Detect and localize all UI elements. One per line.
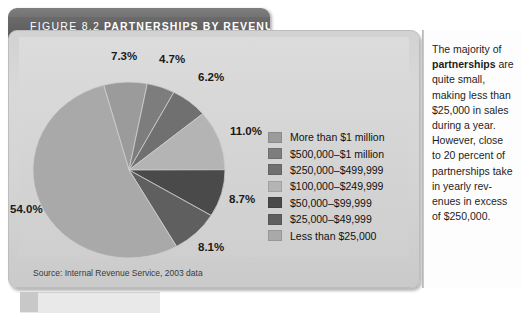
pie-value-label: 8.7% (229, 193, 255, 205)
legend-item: Less than $25,000 (268, 227, 385, 243)
legend-item-label: $100,000–$249,999 (290, 180, 383, 192)
legend-item-label: $250,000–$499,999 (290, 164, 383, 176)
chart-legend: More than $1 million$500,000–$1 million$… (268, 129, 385, 244)
sidebar-divider (423, 30, 424, 288)
figure-panel: 7.3%4.7%6.2%11.0%8.7%8.1%54.0% More than… (8, 30, 420, 288)
legend-item-label: More than $1 million (290, 131, 385, 143)
legend-color-swatch (268, 181, 282, 192)
legend-color-swatch (268, 164, 282, 175)
legend-color-swatch (268, 214, 282, 225)
pie-value-label: 7.3% (111, 50, 137, 62)
pie-chart: 7.3%4.7%6.2%11.0%8.7%8.1%54.0% (23, 67, 273, 282)
sidebar-emphasis: partnerships (432, 58, 496, 70)
pie-value-label: 8.1% (198, 241, 224, 253)
legend-item: $500,000–$1 million (268, 145, 385, 161)
legend-item: $100,000–$249,999 (268, 178, 385, 194)
legend-color-swatch (268, 132, 282, 143)
page-bottom-tab (20, 292, 38, 312)
legend-item: $50,000–$99,999 (268, 195, 385, 211)
legend-color-swatch (268, 197, 282, 208)
pie-value-label: 6.2% (198, 71, 224, 83)
pie-slice-group (33, 82, 225, 258)
sidebar-panel: The majority of partnerships are quite s… (422, 30, 521, 288)
legend-color-swatch (268, 230, 282, 241)
source-note: Source: Internal Revenue Service, 2003 d… (33, 268, 203, 278)
legend-item-label: $500,000–$1 million (290, 148, 384, 160)
sidebar-body-text: The majority of partnerships are quite s… (432, 42, 514, 224)
legend-color-swatch (268, 148, 282, 159)
page-bottom-strip (20, 292, 160, 313)
pie-value-label: 54.0% (10, 203, 43, 215)
legend-item: $250,000–$499,999 (268, 162, 385, 178)
sidebar-text-run: The majority of (432, 43, 501, 55)
pie-value-label: 11.0% (230, 125, 262, 137)
legend-item: $25,000–$49,999 (268, 211, 385, 227)
pie-value-label: 4.7% (159, 53, 185, 65)
legend-item-label: $25,000–$49,999 (290, 213, 372, 225)
legend-item-label: Less than $25,000 (290, 230, 376, 242)
legend-item: More than $1 million (268, 129, 385, 145)
sidebar-text-run: are quite small, making less than $25,00… (432, 58, 514, 222)
legend-item-label: $50,000–$99,999 (290, 197, 372, 209)
pie-chart-svg (29, 77, 229, 267)
